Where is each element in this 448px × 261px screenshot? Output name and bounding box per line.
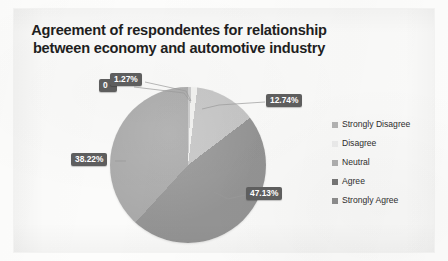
chart-title-line-2: between economy and automotive industry: [14, 39, 344, 57]
legend-label: Neutral: [342, 158, 370, 167]
pie-label-neutral[interactable]: 1.27%: [110, 73, 142, 86]
chart-title-line-1: Agreement of respondentes for relationsh…: [14, 21, 344, 39]
legend-swatch-icon: [332, 198, 338, 204]
pie-label-strongly-agree[interactable]: 47.13%: [246, 187, 282, 200]
pie-label-disagree[interactable]: 38.22%: [71, 153, 107, 166]
legend-swatch-icon: [332, 179, 338, 185]
legend-swatch-icon: [332, 122, 338, 128]
legend-label: Agree: [342, 177, 365, 186]
legend-label: Strongly Agree: [342, 196, 398, 205]
legend-item-strongly-agree[interactable]: Strongly Agree: [332, 191, 432, 210]
pie-disc: [110, 87, 266, 243]
pie-chart[interactable]: [110, 87, 266, 243]
legend-item-disagree[interactable]: Disagree: [332, 134, 432, 153]
legend-item-agree[interactable]: Agree: [332, 172, 432, 191]
legend-item-neutral[interactable]: Neutral: [332, 153, 432, 172]
legend-label: Disagree: [342, 139, 376, 148]
scanned-page: Agreement of respondentes for relationsh…: [0, 0, 448, 261]
pie-label-agree[interactable]: 12.74%: [266, 94, 302, 107]
legend-item-strongly-disagree[interactable]: Strongly Disagree: [332, 115, 432, 134]
legend-swatch-icon: [332, 141, 338, 147]
legend-swatch-icon: [332, 160, 338, 166]
legend-label: Strongly Disagree: [342, 120, 410, 129]
chart-plate: Agreement of respondentes for relationsh…: [14, 9, 434, 252]
chart-title: Agreement of respondentes for relationsh…: [14, 21, 344, 57]
chart-legend: Strongly Disagree Disagree Neutral Agree…: [332, 115, 432, 210]
